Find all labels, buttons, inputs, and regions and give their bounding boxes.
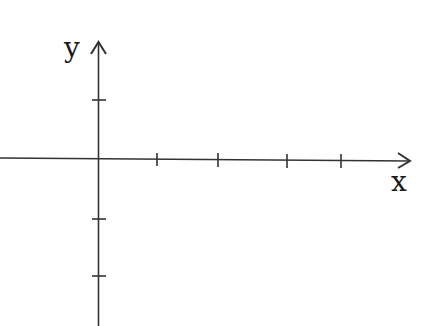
x-axis-label: x (391, 168, 407, 196)
x-axis-line (0, 158, 410, 161)
y-axis (91, 42, 106, 326)
y-axis-label: y (64, 34, 80, 62)
x-axis (0, 153, 410, 168)
